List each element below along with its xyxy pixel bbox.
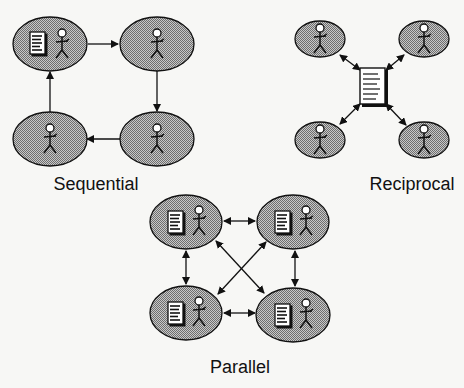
document-icon <box>30 32 48 57</box>
hub-document-icon <box>360 68 388 107</box>
node-p4 <box>256 288 330 342</box>
node-r3 <box>295 122 345 158</box>
node-r4 <box>399 122 449 158</box>
node-s4 <box>13 112 87 166</box>
document-icon <box>168 302 186 327</box>
document-icon <box>168 211 186 236</box>
node-s2 <box>120 17 194 71</box>
arrow-p2-p3 <box>218 242 266 294</box>
parallel-group <box>150 195 330 342</box>
node-s1 <box>13 17 87 71</box>
parallel-label: Parallel <box>210 357 270 378</box>
arrow-r4-hub <box>386 104 406 125</box>
document-icon <box>275 304 293 329</box>
node-p2 <box>257 195 329 249</box>
node-p3 <box>150 286 222 340</box>
reciprocal-label: Reciprocal <box>369 174 454 195</box>
node-p1 <box>150 195 222 249</box>
sequential-group <box>13 17 194 166</box>
node-s3 <box>120 112 194 166</box>
arrow-r1-hub <box>340 55 360 70</box>
arrow-p1-p4 <box>216 241 264 293</box>
sequential-label: Sequential <box>53 174 138 195</box>
node-r2 <box>399 21 449 57</box>
node-r1 <box>295 21 345 57</box>
arrow-r3-hub <box>340 104 360 124</box>
document-icon <box>275 211 293 236</box>
arrow-r2-hub <box>386 55 404 70</box>
reciprocal-group <box>295 21 449 158</box>
